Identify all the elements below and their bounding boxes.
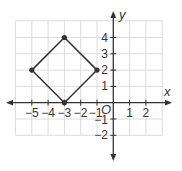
y-axis-down-arrow-icon <box>110 154 116 161</box>
x-tick-label: 2 <box>143 106 150 120</box>
y-tick-label: −2 <box>94 128 108 142</box>
coordinate-plane: x y O −5 −4 −3 −2 −1 1 2 4 3 2 1 −1 −2 <box>0 0 182 171</box>
y-tick-label: 2 <box>101 63 108 77</box>
x-tick-labels: −5 −4 −3 −2 −1 1 2 <box>25 106 150 120</box>
vertex-point <box>62 100 67 105</box>
x-tick-label: −4 <box>41 106 55 120</box>
x-axis-label: x <box>163 84 171 99</box>
y-axis-label: y <box>118 7 127 22</box>
vertex-point <box>62 35 67 40</box>
y-tick-label: 3 <box>101 47 108 61</box>
y-axis-up-arrow-icon <box>110 11 116 18</box>
x-tick-label: 1 <box>126 106 133 120</box>
vertex-point <box>29 68 34 73</box>
x-axis-right-arrow-icon <box>165 100 172 106</box>
vertex-point <box>94 68 99 73</box>
x-tick-label: −5 <box>25 106 39 120</box>
y-tick-label: −1 <box>94 113 108 127</box>
x-tick-label: −3 <box>58 106 72 120</box>
y-tick-label: 4 <box>101 31 108 45</box>
y-tick-label: 1 <box>101 79 108 93</box>
x-axis-left-arrow-icon <box>6 100 13 106</box>
x-tick-label: −2 <box>74 106 88 120</box>
